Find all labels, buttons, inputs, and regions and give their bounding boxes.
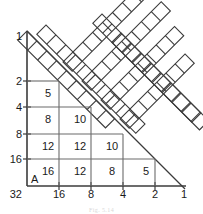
x-tick-label-8: 8 <box>88 188 94 200</box>
cell-value-r2-c1: 5 <box>45 87 51 99</box>
ladder-band-3 <box>63 0 151 71</box>
y-tick-label-16: 16 <box>10 153 22 165</box>
y-tick-label-4: 4 <box>16 101 22 113</box>
x-tick-label-4: 4 <box>120 188 126 200</box>
cell-value-r16-c2: 12 <box>74 165 86 177</box>
y-tick-label-8: 8 <box>16 128 22 140</box>
y-tick-label-32: 32 <box>10 188 22 200</box>
cell-value-r16-c4: 5 <box>143 165 149 177</box>
x-tick-label-1: 1 <box>181 188 187 200</box>
cell-value-r4-c1: 8 <box>45 113 51 125</box>
y-tick-label-2: 2 <box>16 75 22 87</box>
cell-value-r4-c2: 10 <box>74 113 86 125</box>
ladder-band-6 <box>120 54 194 128</box>
cell-value-r8-c1: 12 <box>42 140 54 152</box>
figure-container: 1 2 4 8 16 32 16 8 4 2 1 5 8 10 12 12 10… <box>0 0 203 214</box>
figure-caption: Fig. 5.14 <box>0 207 203 213</box>
cell-value-r8-c3: 10 <box>106 140 118 152</box>
cell-value-r16-c1: 16 <box>42 165 54 177</box>
staircase-diagram-svg: 1 2 4 8 16 32 16 8 4 2 1 5 8 10 12 12 10… <box>0 0 203 214</box>
origin-point-label: A <box>31 173 39 185</box>
cell-value-r16-c3: 8 <box>109 165 115 177</box>
x-tick-label-2: 2 <box>152 188 158 200</box>
y-tick-label-1: 1 <box>16 30 22 42</box>
x-tick-label-16: 16 <box>53 188 65 200</box>
cell-value-r8-c2: 12 <box>74 140 86 152</box>
